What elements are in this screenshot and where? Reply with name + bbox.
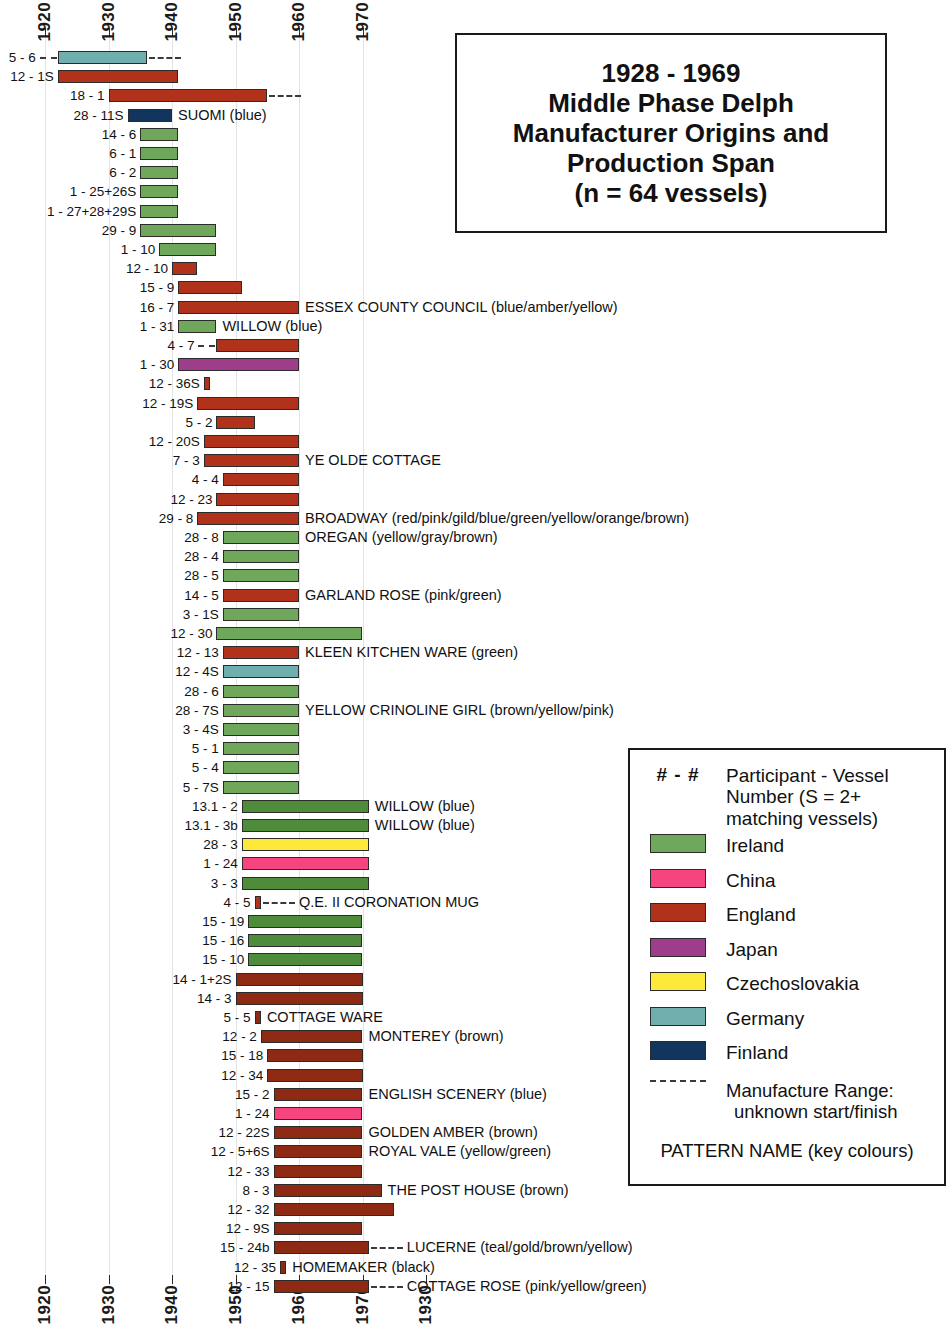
span-bar-ireland[interactable] [216, 627, 362, 640]
span-bar-england[interactable] [280, 1261, 286, 1274]
span-bar-england[interactable] [274, 1184, 382, 1197]
span-bar-ireland[interactable] [140, 147, 178, 160]
span-bar-czechoslovakia[interactable] [242, 838, 369, 851]
span-bar-ireland[interactable] [223, 531, 299, 544]
span-bar-england[interactable] [274, 1280, 369, 1293]
span-bar-england[interactable] [178, 301, 299, 314]
span-bar-england[interactable] [236, 992, 363, 1005]
legend-item-england[interactable]: England [630, 903, 944, 925]
span-bar-england[interactable] [216, 339, 299, 352]
span-bar-england[interactable] [204, 377, 210, 390]
bar-row[interactable]: 12 - 13KLEEN KITCHEN WARE (green) [0, 643, 941, 662]
span-bar-ireland[interactable] [140, 224, 216, 237]
legend-item-finland[interactable]: Finland [630, 1041, 944, 1063]
bar-row[interactable]: 4 - 4 [0, 470, 941, 489]
span-bar-ireland[interactable] [140, 128, 178, 141]
span-bar-ireland[interactable] [140, 205, 178, 218]
span-bar-ireland[interactable] [223, 781, 299, 794]
span-bar-england[interactable] [274, 1203, 395, 1216]
span-bar-england[interactable] [109, 89, 268, 102]
span-bar-ireland[interactable] [223, 704, 299, 717]
span-bar-germany[interactable] [223, 665, 299, 678]
bar-row[interactable]: 15 - 24bLUCERNE (teal/gold/brown/yellow) [0, 1238, 941, 1257]
bar-row[interactable]: 29 - 8BROADWAY (red/pink/gild/blue/green… [0, 509, 941, 528]
span-bar-ireland[interactable] [242, 800, 369, 813]
bar-row[interactable]: 12 - 35HOMEMAKER (black) [0, 1258, 941, 1277]
bar-row[interactable]: 12 - 15COTTAGE ROSE (pink/yellow/green) [0, 1277, 941, 1296]
span-bar-england[interactable] [255, 1011, 261, 1024]
legend-item-germany[interactable]: Germany [630, 1007, 944, 1029]
bar-row[interactable]: 28 - 4 [0, 547, 941, 566]
bar-row[interactable]: 28 - 5 [0, 566, 941, 585]
span-bar-ireland[interactable] [140, 166, 178, 179]
span-bar-england[interactable] [255, 896, 261, 909]
span-bar-japan[interactable] [178, 358, 299, 371]
span-bar-england[interactable] [274, 1241, 369, 1254]
span-bar-england[interactable] [172, 262, 197, 275]
span-bar-ireland[interactable] [223, 723, 299, 736]
span-bar-finland[interactable] [128, 109, 172, 122]
span-bar-china[interactable] [274, 1107, 363, 1120]
span-bar-england[interactable] [216, 493, 299, 506]
span-bar-ireland[interactable] [178, 320, 216, 333]
span-bar-ireland[interactable] [242, 819, 369, 832]
bar-row[interactable]: 28 - 7SYELLOW CRINOLINE GIRL (brown/yell… [0, 701, 941, 720]
bar-row[interactable]: 3 - 1S [0, 605, 941, 624]
legend-item-czechoslovakia[interactable]: Czechoslovakia [630, 972, 944, 994]
span-bar-england[interactable] [204, 435, 299, 448]
bar-row[interactable]: 16 - 7ESSEX COUNTY COUNCIL (blue/amber/y… [0, 298, 941, 317]
span-bar-ireland[interactable] [248, 915, 362, 928]
span-bar-england[interactable] [223, 473, 299, 486]
span-bar-ireland[interactable] [223, 685, 299, 698]
span-bar-ireland[interactable] [140, 185, 178, 198]
span-bar-england[interactable] [274, 1088, 363, 1101]
bar-row[interactable]: 1 - 10 [0, 240, 941, 259]
legend-item-china[interactable]: China [630, 869, 944, 891]
span-bar-england[interactable] [267, 1069, 362, 1082]
span-bar-england[interactable] [274, 1126, 363, 1139]
span-bar-ireland[interactable] [223, 550, 299, 563]
span-bar-china[interactable] [242, 857, 369, 870]
bar-row[interactable]: 12 - 32 [0, 1200, 941, 1219]
span-bar-england[interactable] [216, 416, 254, 429]
bar-row[interactable]: 5 - 2 [0, 413, 941, 432]
bar-row[interactable]: 7 - 3YE OLDE COTTAGE [0, 451, 941, 470]
bar-row[interactable]: 1 - 31WILLOW (blue) [0, 317, 941, 336]
bar-row[interactable]: 12 - 20S [0, 432, 941, 451]
bar-row[interactable]: 12 - 10 [0, 259, 941, 278]
bar-row[interactable]: 1 - 30 [0, 355, 941, 374]
span-bar-england[interactable] [274, 1165, 363, 1178]
span-bar-england[interactable] [261, 1030, 363, 1043]
bar-row[interactable]: 4 - 7 [0, 336, 941, 355]
span-bar-england[interactable] [223, 589, 299, 602]
bar-row[interactable]: 14 - 5GARLAND ROSE (pink/green) [0, 586, 941, 605]
bar-row[interactable]: 12 - 9S [0, 1219, 941, 1238]
span-bar-england[interactable] [204, 454, 299, 467]
span-bar-england[interactable] [197, 512, 299, 525]
span-bar-england[interactable] [236, 973, 363, 986]
span-bar-england[interactable] [274, 1222, 363, 1235]
span-bar-england[interactable] [267, 1049, 362, 1062]
bar-row[interactable]: 12 - 23 [0, 490, 941, 509]
span-bar-england[interactable] [197, 397, 299, 410]
span-bar-england[interactable] [178, 281, 242, 294]
bar-row[interactable]: 28 - 6 [0, 682, 941, 701]
span-bar-ireland[interactable] [248, 934, 362, 947]
span-bar-ireland[interactable] [242, 877, 369, 890]
span-bar-ireland[interactable] [223, 742, 299, 755]
span-bar-england[interactable] [274, 1145, 363, 1158]
bar-row[interactable]: 12 - 19S [0, 394, 941, 413]
legend-item-japan[interactable]: Japan [630, 938, 944, 960]
span-bar-england[interactable] [223, 646, 299, 659]
span-bar-ireland[interactable] [248, 953, 362, 966]
bar-row[interactable]: 15 - 9 [0, 278, 941, 297]
span-bar-germany[interactable] [58, 51, 147, 64]
bar-row[interactable]: 12 - 4S [0, 662, 941, 681]
bar-row[interactable]: 3 - 4S [0, 720, 941, 739]
bar-row[interactable]: 12 - 30 [0, 624, 941, 643]
span-bar-england[interactable] [58, 70, 179, 83]
bar-row[interactable]: 28 - 8OREGAN (yellow/gray/brown) [0, 528, 941, 547]
span-bar-ireland[interactable] [223, 608, 299, 621]
span-bar-ireland[interactable] [159, 243, 216, 256]
bar-row[interactable]: 12 - 36S [0, 374, 941, 393]
